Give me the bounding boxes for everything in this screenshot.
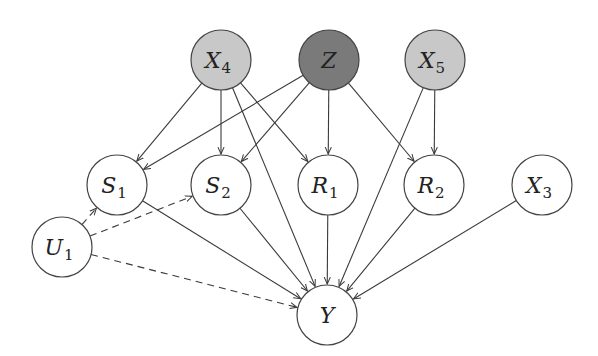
node-subscript: 3	[543, 184, 553, 202]
node-layer: X4ZX5S1S2R1R2X3U1Y	[32, 30, 572, 345]
node-y: Y	[297, 285, 357, 345]
node-subscript: 2	[221, 184, 231, 202]
edge-x5-to-r2	[434, 90, 435, 154]
node-r1: R1	[298, 155, 358, 215]
edge-r1-to-y	[327, 215, 328, 284]
node-x4: X4	[191, 30, 251, 90]
edge-x4-to-s1	[137, 83, 202, 161]
node-u1: U1	[32, 217, 92, 277]
node-subscript: 4	[222, 59, 232, 77]
edge-u1-to-y	[91, 254, 297, 307]
node-x3: X3	[512, 155, 572, 215]
edge-x4-to-r1	[241, 83, 308, 162]
edge-z-to-s2	[241, 83, 309, 162]
node-r2: R2	[404, 155, 464, 215]
edge-z-to-r2	[348, 83, 414, 161]
edge-z-to-r1	[328, 90, 329, 154]
node-subscript: 2	[435, 184, 445, 202]
node-subscript: 1	[117, 184, 127, 202]
node-subscript: 1	[329, 184, 339, 202]
node-label: Z	[320, 48, 337, 73]
causal-diagram: X4ZX5S1S2R1R2X3U1Y	[0, 0, 598, 356]
node-x5: X5	[405, 30, 465, 90]
node-label: Y	[320, 303, 337, 328]
node-s2: S2	[191, 155, 251, 215]
edge-r2-to-y	[347, 208, 415, 291]
node-s1: S1	[87, 155, 147, 215]
node-z: Z	[299, 30, 359, 90]
edge-s2-to-y	[240, 208, 307, 291]
node-subscript: 1	[64, 246, 74, 264]
node-subscript: 5	[436, 59, 446, 77]
edge-u1-to-s1	[82, 208, 97, 224]
